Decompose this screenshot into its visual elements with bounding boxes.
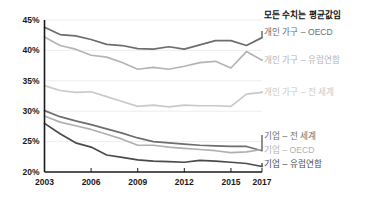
legend-item-household-world: 개인 가구 – 전 세계 bbox=[264, 87, 334, 98]
legend-item-household-oecd: 개인 가구 – OECD bbox=[264, 27, 333, 38]
x-tick-label: 2009 bbox=[128, 177, 147, 187]
legend-item-household-eu: 개인 가구 – 유럽연합 bbox=[264, 55, 340, 66]
x-tick-label: 2015 bbox=[221, 177, 240, 187]
y-axis-tick-labels: 45%40%35%30%25%20% bbox=[22, 15, 39, 177]
x-tick-label: 2017 bbox=[253, 177, 272, 187]
chart-note: 모든 수치는 평균값임 bbox=[264, 10, 341, 21]
y-tick-label: 45% bbox=[22, 15, 39, 25]
x-tick-label: 2003 bbox=[35, 177, 54, 187]
series-line bbox=[45, 86, 263, 107]
series-lines bbox=[45, 27, 263, 166]
series-line bbox=[45, 27, 263, 49]
y-tick-label: 35% bbox=[22, 76, 39, 86]
y-tick-label: 30% bbox=[22, 106, 39, 116]
y-tick-label: 20% bbox=[22, 167, 39, 177]
legend-item-corporate-oecd: 기업 – OECD bbox=[264, 145, 314, 156]
series-line bbox=[45, 37, 263, 69]
line-chart: 45%40%35%30%25%20% 200320062009201220152… bbox=[0, 0, 384, 201]
x-tick-label: 2006 bbox=[82, 177, 101, 187]
x-axis-tick-labels: 200320062009201220152017 bbox=[35, 177, 272, 187]
legend-item-corporate-world: 기업 – 전 세계 bbox=[264, 131, 316, 142]
x-tick-label: 2012 bbox=[175, 177, 194, 187]
y-tick-label: 25% bbox=[22, 136, 39, 146]
y-tick-label: 40% bbox=[22, 45, 39, 55]
gridlines bbox=[45, 20, 263, 142]
legend-item-corporate-eu: 기업 – 유럽연합 bbox=[264, 159, 322, 170]
